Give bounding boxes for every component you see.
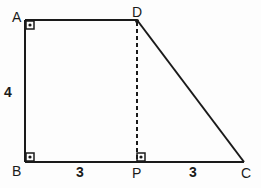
vertex-label-B: B: [12, 163, 21, 179]
right-angle-marker-B: [26, 153, 34, 161]
trapezoid-diagram: A D B P C 4 3 3: [0, 0, 261, 188]
vertex-label-D: D: [132, 4, 142, 20]
diagram-canvas: A D B P C 4 3 3: [0, 0, 261, 188]
right-angle-marker-P: [137, 153, 145, 161]
vertex-label-A: A: [12, 9, 22, 25]
vertex-label-C: C: [241, 165, 251, 181]
segment-DC: [137, 20, 244, 162]
length-label-BP: 3: [76, 164, 84, 180]
length-label-PC: 3: [189, 164, 197, 180]
length-label-AB: 4: [4, 84, 12, 100]
right-angle-marker-A: [26, 21, 34, 29]
vertex-label-P: P: [132, 165, 141, 181]
